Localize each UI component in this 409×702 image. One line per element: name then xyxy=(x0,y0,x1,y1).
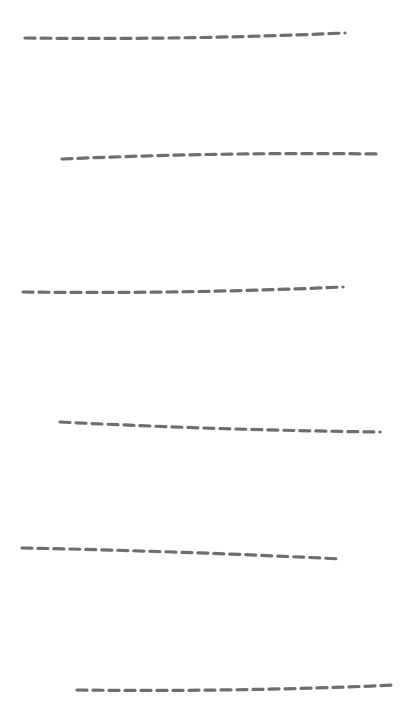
dashed-line-2 xyxy=(62,154,381,159)
dashed-lines-drawing xyxy=(0,0,409,702)
dashed-line-4 xyxy=(60,422,380,432)
dashed-lines-canvas xyxy=(0,0,409,702)
dashed-line-6 xyxy=(77,685,396,690)
dashed-line-3 xyxy=(23,287,343,292)
dashed-line-1 xyxy=(25,33,345,38)
dashed-line-5 xyxy=(22,548,341,559)
